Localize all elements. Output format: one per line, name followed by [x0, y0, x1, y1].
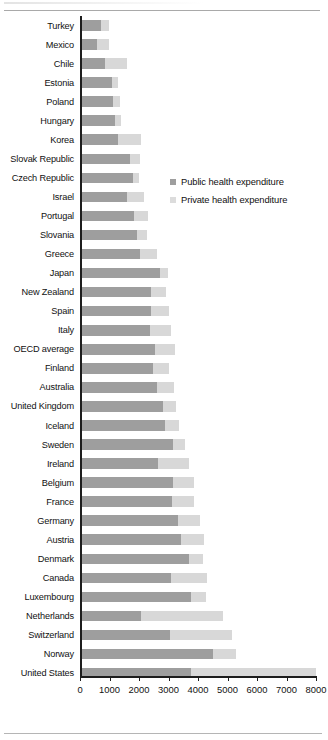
legend-swatch-private-icon: [170, 197, 176, 203]
stacked-bar: [80, 573, 207, 584]
bar-track: [78, 587, 328, 606]
chart-plot-area: TurkeyMexicoChileEstoniaPolandHungaryKor…: [0, 16, 328, 691]
category-label: Austria: [0, 535, 78, 545]
category-label: Korea: [0, 135, 78, 145]
x-axis-tick-label: 7000: [276, 684, 297, 695]
bar-segment-public: [80, 115, 115, 126]
stacked-bar: [80, 363, 169, 374]
x-axis-tick: [316, 676, 317, 681]
bar-segment-private: [150, 325, 172, 336]
bar-segment-private: [171, 573, 207, 584]
stacked-bar: [80, 268, 168, 279]
bar-segment-private: [134, 211, 149, 222]
stacked-bar: [80, 649, 236, 660]
bar-segment-public: [80, 554, 189, 565]
stacked-bar: [80, 249, 157, 260]
bar-row: Mexico: [0, 35, 328, 54]
bar-segment-public: [80, 268, 160, 279]
bar-track: [78, 645, 328, 664]
bar-segment-private: [173, 477, 195, 488]
x-axis-tick: [198, 676, 199, 681]
bar-track: [78, 226, 328, 245]
bar-segment-public: [80, 363, 153, 374]
bar-segment-public: [80, 649, 213, 660]
bar-track: [78, 340, 328, 359]
category-label: Hungary: [0, 116, 78, 126]
category-label: Estonia: [0, 78, 78, 88]
bar-track: [78, 492, 328, 511]
stacked-bar: [80, 77, 118, 88]
bar-row: Slovak Republic: [0, 149, 328, 168]
bar-track: [78, 264, 328, 283]
bar-row: United Kingdom: [0, 397, 328, 416]
bar-segment-private: [141, 611, 224, 622]
category-label: Slovania: [0, 230, 78, 240]
category-label: Ireland: [0, 459, 78, 469]
category-label: Denmark: [0, 554, 78, 564]
bar-row: Belgium: [0, 473, 328, 492]
bar-row: Germany: [0, 511, 328, 530]
category-label: United Kingdom: [0, 401, 78, 411]
category-label: Portugal: [0, 211, 78, 221]
bar-segment-public: [80, 496, 172, 507]
bar-row: United States: [0, 664, 328, 683]
bar-track: [78, 473, 328, 492]
bar-row: Estonia: [0, 73, 328, 92]
stacked-bar: [80, 211, 148, 222]
bar-track: [78, 664, 328, 683]
stacked-bar: [80, 515, 200, 526]
bar-segment-private: [157, 382, 174, 393]
category-label: Japan: [0, 268, 78, 278]
bar-segment-public: [80, 630, 170, 641]
bar-segment-public: [80, 154, 130, 165]
bar-track: [78, 626, 328, 645]
bar-track: [78, 454, 328, 473]
bar-row: Netherlands: [0, 606, 328, 625]
bar-row: Sweden: [0, 435, 328, 454]
bar-track: [78, 149, 328, 168]
category-label: Italy: [0, 325, 78, 335]
bar-segment-private: [155, 344, 175, 355]
bar-segment-public: [80, 230, 137, 241]
bar-segment-private: [113, 96, 120, 107]
bar-track: [78, 245, 328, 264]
bar-segment-private: [181, 534, 203, 545]
x-axis-tick: [169, 676, 170, 681]
bar-track: [78, 606, 328, 625]
bar-row: Japan: [0, 264, 328, 283]
x-axis-tick-label: 1000: [99, 684, 120, 695]
bar-segment-private: [158, 458, 189, 469]
bar-segment-public: [80, 192, 127, 203]
bar-segment-private: [97, 39, 109, 50]
stacked-bar: [80, 611, 223, 622]
bar-segment-public: [80, 249, 140, 260]
bar-segment-private: [151, 287, 166, 298]
bar-segment-public: [80, 58, 105, 69]
category-label: Turkey: [0, 21, 78, 31]
bar-segment-public: [80, 306, 151, 317]
x-axis-tick: [80, 676, 81, 681]
bar-track: [78, 511, 328, 530]
bar-segment-private: [112, 77, 118, 88]
bar-segment-public: [80, 592, 191, 603]
x-axis-tick-label: 6000: [247, 684, 268, 695]
bar-track: [78, 16, 328, 35]
stacked-bar: [80, 58, 127, 69]
category-label: OECD average: [0, 344, 78, 354]
stacked-bar: [80, 592, 206, 603]
bar-segment-public: [80, 344, 155, 355]
x-axis-tick: [257, 676, 258, 681]
bar-row: OECD average: [0, 340, 328, 359]
bar-segment-private: [105, 58, 127, 69]
bar-segment-private: [160, 268, 169, 279]
legend-swatch-public-icon: [170, 179, 176, 185]
category-label: Luxembourg: [0, 592, 78, 602]
stacked-bar: [80, 173, 139, 184]
category-label: Switzerland: [0, 630, 78, 640]
bar-track: [78, 530, 328, 549]
bar-segment-public: [80, 439, 173, 450]
x-axis-tick-label: 2000: [129, 684, 150, 695]
bar-segment-private: [172, 496, 194, 507]
legend-label-private: Private health expenditure: [181, 194, 287, 205]
category-label: France: [0, 497, 78, 507]
